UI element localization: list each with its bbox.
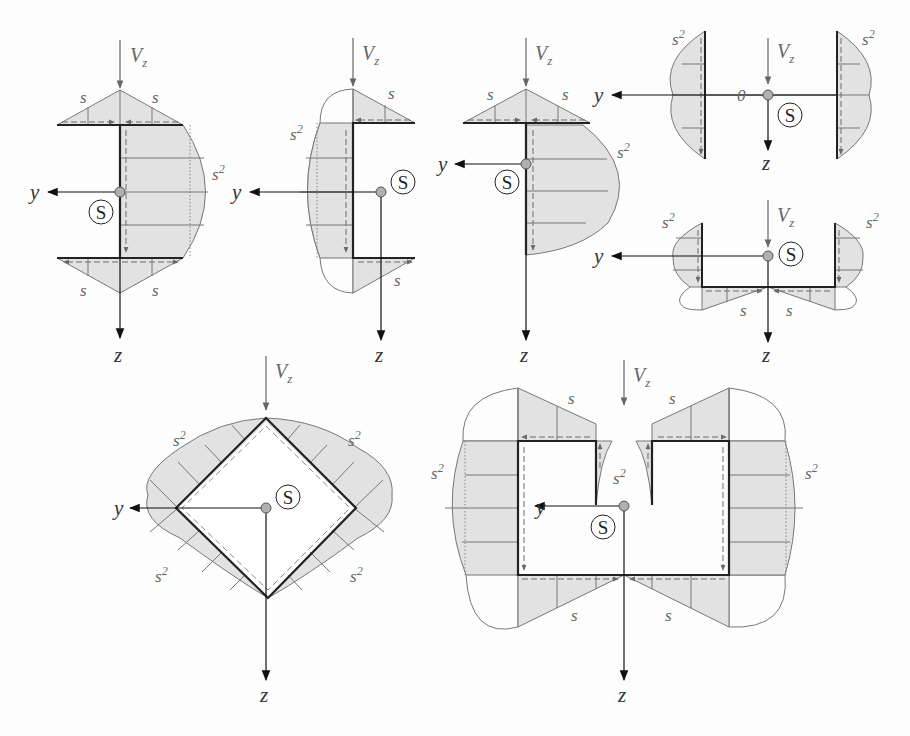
svg-text:s2: s2 [155,564,168,586]
svg-text:s: s [568,389,575,408]
svg-text:s: s [786,301,793,320]
panel-i-section: Vz S y z [28,40,225,367]
svg-text:S: S [598,517,609,538]
svg-text:z: z [761,343,770,367]
svg-text:s2: s2 [613,466,626,488]
force-label: Vz [130,44,147,70]
svg-text:s2: s2 [290,122,303,144]
svg-text:s: s [740,301,747,320]
svg-text:s: s [571,606,578,625]
svg-text:S: S [398,172,409,193]
svg-text:s2: s2 [662,210,675,232]
panel-slotted-box: Vz [431,360,818,707]
panel-twin-flange: Vz S 0 y z s2 s2 [592,27,875,175]
svg-text:s: s [669,389,676,408]
svg-text:s2: s2 [350,564,363,586]
svg-text:s2: s2 [672,27,685,49]
svg-text:s: s [665,606,672,625]
svg-text:s: s [487,85,494,104]
svg-text:s: s [80,88,87,107]
svg-text:s: s [388,84,395,103]
diagram-canvas: Vz S y z [0,0,910,736]
svg-text:Vz: Vz [777,40,794,66]
svg-text:y: y [592,244,604,268]
svg-text:S: S [502,172,513,193]
svg-text:y: y [534,495,546,519]
svg-text:Vz: Vz [275,360,292,386]
panel-channel: Vz S y z s s s2 [230,38,415,367]
svg-text:s2: s2 [866,210,879,232]
zero-flow-label: 0 [737,86,746,105]
svg-text:S: S [283,487,294,508]
svg-text:s: s [562,85,569,104]
svg-text:y: y [230,180,242,204]
svg-text:Vz: Vz [777,204,794,230]
panel-u-section: Vz S y z s s s2 s2 [592,200,879,367]
y-axis-label: y [28,180,40,204]
svg-text:z: z [374,343,383,367]
svg-text:z: z [259,683,268,707]
svg-text:S: S [786,244,797,265]
svg-text:s: s [394,271,401,290]
svg-text:z: z [617,683,626,707]
svg-text:y: y [436,152,448,176]
svg-text:s: s [152,88,159,107]
svg-text:s: s [152,281,159,300]
svg-text:s2: s2 [431,461,444,483]
svg-text:Vz: Vz [535,42,552,68]
svg-text:s2: s2 [212,162,225,184]
svg-text:s: s [80,281,87,300]
svg-text:s2: s2 [348,428,361,450]
svg-text:z: z [761,151,770,175]
svg-text:Vz: Vz [362,42,379,68]
z-axis-label: z [113,343,122,367]
svg-text:s2: s2 [617,140,630,162]
shear-center-label: S [96,202,107,223]
svg-text:z: z [519,343,528,367]
svg-text:s2: s2 [805,461,818,483]
svg-text:y: y [592,83,604,107]
shear-flow-figure: Vz S y z [0,0,910,736]
svg-text:Vz: Vz [633,364,650,390]
svg-text:y: y [112,496,124,520]
svg-text:s2: s2 [862,27,875,49]
svg-text:S: S [785,105,796,126]
panel-diamond: Vz S y z s2 s2 s2 s2 [112,356,392,707]
